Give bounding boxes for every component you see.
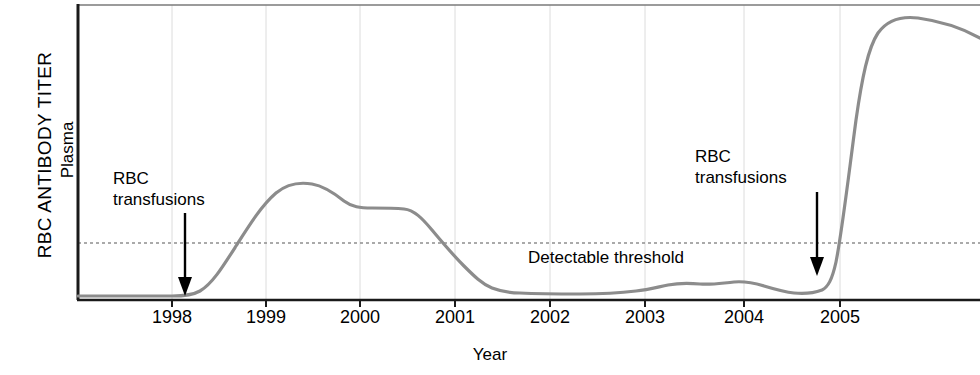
x-tick-label-2002: 2002 [510, 307, 590, 328]
x-tick-label-2003: 2003 [605, 307, 685, 328]
x-tick-label-1999: 1999 [226, 307, 306, 328]
y-axis-title-inner: Plasma [56, 0, 80, 300]
x-tick-label-2001: 2001 [415, 307, 495, 328]
annotation-rbc-transfusions-left: RBC transfusions [113, 168, 205, 210]
x-axis-title: Year [0, 345, 980, 365]
annotation-right-line1: RBC [695, 146, 787, 167]
annotation-left-line2: transfusions [113, 189, 205, 210]
x-tick-label-1998: 1998 [132, 307, 212, 328]
x-tick-label-2004: 2004 [704, 307, 784, 328]
chart-figure: RBC ANTIBODY TITER Plasma Year 1998 1999… [0, 0, 980, 375]
annotation-rbc-transfusions-right: RBC transfusions [695, 146, 787, 188]
annotation-right-line2: transfusions [695, 167, 787, 188]
x-tick-label-2000: 2000 [320, 307, 400, 328]
detectable-threshold-label: Detectable threshold [528, 248, 684, 268]
x-tick-label-2005: 2005 [800, 307, 880, 328]
annotation-left-line1: RBC [113, 168, 205, 189]
